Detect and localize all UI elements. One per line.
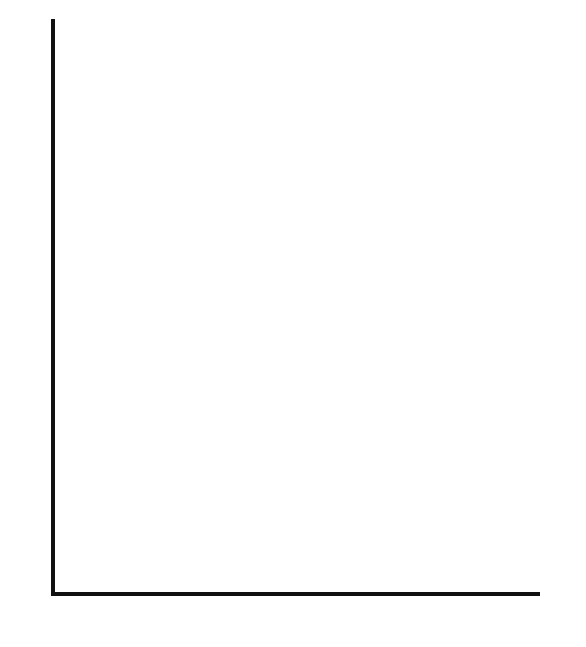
x-axis [51,592,540,596]
y-axis [51,19,55,596]
coordinate-grid [0,0,586,647]
